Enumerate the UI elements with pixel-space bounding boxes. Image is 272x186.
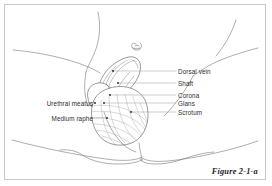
dot-medium-raphe [106, 117, 108, 119]
label-glans: Glans [178, 100, 195, 107]
dot-glans [103, 102, 105, 104]
perineal-crease [139, 143, 142, 160]
label-urethral-meatus: Urethral meatus [47, 100, 93, 107]
abdomen-midline [86, 12, 100, 72]
dot-scrotum [130, 111, 132, 113]
dot-urethral-meatus [94, 102, 96, 104]
navel-icon [132, 43, 142, 50]
label-scrotum: Scrotum [178, 109, 202, 116]
anatomical-illustration [0, 0, 272, 186]
dot-corona [109, 94, 111, 96]
figure-caption: Figure 2-1-a [212, 167, 258, 176]
label-medium-raphe: Medium raphe [52, 115, 93, 122]
label-corona: Corona [178, 92, 199, 99]
left-thigh-inner [60, 150, 142, 164]
figure-root: Dorsal veinShaftCoronaGlansScrotum Ureth… [0, 0, 272, 186]
dot-shaft [117, 82, 119, 84]
label-shaft: Shaft [178, 80, 193, 87]
right-hip-crease [216, 20, 236, 56]
right-thigh-outline [142, 141, 258, 161]
label-dorsal-vein: Dorsal vein [178, 68, 211, 75]
right-thigh-inner [140, 152, 214, 164]
dot-dorsal-vein [112, 70, 114, 72]
